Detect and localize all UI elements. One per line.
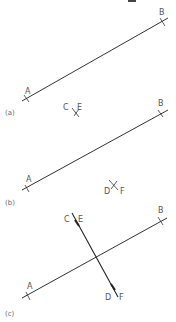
label-d: D: [105, 293, 111, 302]
caption-a: (a): [5, 109, 15, 117]
arc-mark-df: [111, 284, 115, 290]
clipped-header-fragment: [128, 0, 136, 2]
label-f: F: [120, 187, 125, 196]
label-f: F: [119, 293, 124, 302]
arc-mark-a: [24, 95, 29, 102]
label-d: D: [104, 187, 110, 196]
label-c: C: [64, 215, 70, 224]
label-b: B: [158, 206, 164, 215]
label-a: A: [25, 87, 31, 96]
label-b: B: [158, 99, 164, 108]
caption-b: (b): [5, 199, 15, 207]
line-ab: [22, 110, 168, 190]
label-b: B: [159, 8, 165, 17]
panel-c: A B C E D F (c): [5, 206, 167, 318]
label-c: C: [63, 103, 69, 112]
label-a: A: [27, 282, 33, 291]
label-e: E: [78, 215, 83, 224]
label-e: E: [77, 103, 82, 112]
panel-a: A B C E (a): [5, 8, 168, 117]
line-ab: [22, 18, 168, 101]
arc-intersection-df: [109, 180, 118, 190]
label-a: A: [26, 175, 32, 184]
line-ab: [22, 218, 167, 298]
perpendicular-construction-diagram: A B C E (a) A B D F (b) A B C E D F (c): [0, 0, 176, 322]
panel-b: A B D F (b): [5, 99, 168, 207]
caption-c: (c): [5, 310, 15, 318]
